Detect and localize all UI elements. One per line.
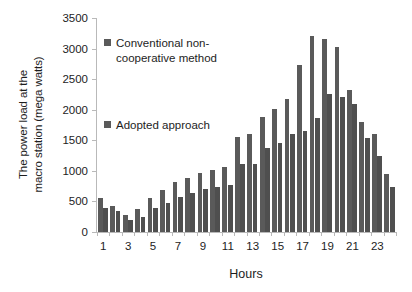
x-axis-tick: [197, 232, 198, 236]
x-axis-tick-label: 23: [371, 240, 384, 252]
y-axis-tick-label: 500: [69, 195, 88, 207]
bar: [310, 36, 315, 232]
bar: [340, 97, 345, 232]
bar: [103, 208, 108, 232]
bar: [260, 117, 265, 232]
bar: [247, 134, 252, 232]
y-axis-tick: [92, 140, 97, 141]
x-axis-tick-label: 11: [222, 240, 234, 252]
x-axis-tick-label: 7: [175, 240, 181, 252]
legend-label-conventional-line1: Conventional non-: [116, 37, 209, 49]
legend-label-adopted: Adopted approach: [116, 119, 210, 131]
bar: [384, 174, 389, 232]
legend-label-conventional-line2: cooperative method: [104, 51, 234, 66]
bar: [365, 138, 370, 232]
bar: [222, 167, 227, 232]
y-axis-tick-label: 3500: [62, 12, 88, 24]
bar: [178, 197, 183, 232]
x-axis-tick-label: 9: [200, 240, 206, 252]
bar: [303, 131, 308, 232]
bar: [141, 217, 146, 232]
x-axis-tick: [159, 232, 160, 236]
y-axis-title-line1: The power load at the: [16, 12, 31, 237]
legend-item-conventional: Conventional non- cooperative method: [104, 36, 234, 65]
bar: [347, 90, 352, 232]
y-axis-tick-label: 3000: [62, 43, 88, 55]
x-axis-tick: [134, 232, 135, 236]
x-axis-tick-label: 17: [296, 240, 309, 252]
bar: [110, 206, 115, 232]
x-axis-tick: [296, 232, 297, 236]
bar: [128, 220, 133, 232]
bar: [390, 187, 395, 232]
bar: [240, 164, 245, 232]
bar: [123, 215, 128, 232]
x-axis-tick-label: 15: [271, 240, 284, 252]
bar: [135, 209, 140, 232]
x-axis-tick: [334, 232, 335, 236]
bar: [297, 65, 302, 232]
x-axis-tick: [184, 232, 185, 236]
x-axis-tick: [147, 232, 148, 236]
bar: [335, 47, 340, 232]
bar: [116, 211, 121, 232]
x-axis-tick: [346, 232, 347, 236]
x-axis-tick: [359, 232, 360, 236]
y-axis-tick-label: 2500: [62, 73, 88, 85]
bar: [166, 203, 171, 232]
bar: [185, 178, 190, 232]
bar: [265, 148, 270, 232]
x-axis-tick: [97, 232, 98, 236]
x-axis-tick: [271, 232, 272, 236]
bar: [198, 173, 203, 232]
bar-chart: The power load at the macro station (meg…: [0, 0, 412, 292]
bar: [203, 189, 208, 232]
x-axis-tick: [259, 232, 260, 236]
x-axis-tick: [209, 232, 210, 236]
bar: [98, 198, 103, 232]
x-axis-tick: [371, 232, 372, 236]
bar: [327, 94, 332, 232]
bar: [322, 39, 327, 232]
y-axis-title-line2: macro station (mega watts): [31, 12, 46, 237]
x-axis-tick-label: 3: [125, 240, 131, 252]
bar: [315, 118, 320, 232]
bar: [210, 170, 215, 232]
x-axis-tick-label: 21: [346, 240, 359, 252]
y-axis-tick-label: 1000: [62, 165, 88, 177]
legend-swatch-adopted: [104, 121, 111, 128]
y-axis-tick: [92, 110, 97, 111]
y-axis-tick: [92, 18, 97, 19]
bar: [272, 109, 277, 233]
bar: [359, 122, 364, 232]
y-axis-tick: [92, 49, 97, 50]
x-axis-tick: [222, 232, 223, 236]
y-axis-tick: [92, 79, 97, 80]
x-axis-tick-label: 19: [321, 240, 334, 252]
bar: [173, 182, 178, 232]
bar: [352, 104, 357, 232]
x-axis-tick: [396, 232, 397, 236]
x-axis-tick: [309, 232, 310, 236]
bar: [235, 137, 240, 232]
x-axis-tick: [172, 232, 173, 236]
bar: [160, 190, 165, 232]
x-axis-tick-label: 13: [246, 240, 259, 252]
bar: [377, 156, 382, 232]
y-axis-title: The power load at the macro station (meg…: [16, 12, 45, 237]
bar: [253, 164, 258, 232]
x-axis-tick-label: 1: [100, 240, 106, 252]
y-axis-tick: [92, 171, 97, 172]
legend-swatch-conventional: [104, 39, 111, 46]
bar: [290, 134, 295, 232]
x-axis-tick-label: 5: [150, 240, 156, 252]
y-axis-tick-label: 1500: [62, 134, 88, 146]
bar: [215, 187, 220, 232]
x-axis-tick: [109, 232, 110, 236]
bar: [148, 198, 153, 232]
x-axis-title: Hours: [96, 267, 396, 281]
y-axis-tick: [92, 201, 97, 202]
x-axis-tick: [247, 232, 248, 236]
x-axis-tick: [321, 232, 322, 236]
bar: [372, 134, 377, 232]
